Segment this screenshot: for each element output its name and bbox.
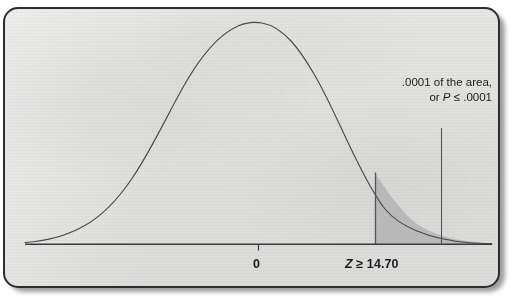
- z-symbol: Z: [345, 257, 353, 271]
- shaded-tail-region: [375, 173, 492, 244]
- annotation-line-2: or P ≤ .0001: [402, 91, 492, 103]
- normal-curve-figure: 0 Z ≥ 14.70 .0001 of the area, or P ≤ .0…: [0, 0, 519, 296]
- tail-area-annotation: .0001 of the area, or P ≤ .0001: [402, 76, 492, 104]
- z-threshold-axis-label: Z ≥ 14.70: [345, 258, 399, 272]
- z-threshold-value: ≥ 14.70: [353, 257, 399, 271]
- annotation-or-prefix: or: [429, 91, 442, 103]
- normal-curve: [25, 22, 492, 243]
- distribution-plot: [0, 0, 519, 296]
- annotation-p-value: ≤ .0001: [451, 91, 492, 103]
- zero-axis-label: 0: [253, 258, 260, 272]
- p-symbol: P: [443, 91, 451, 103]
- annotation-line-1: .0001 of the area,: [402, 76, 492, 88]
